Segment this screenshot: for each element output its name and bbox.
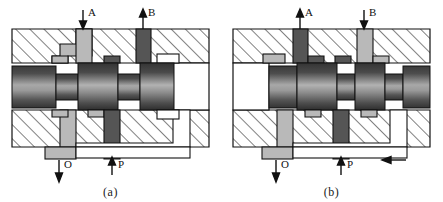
arrow-port-a — [297, 9, 304, 29]
drain-pocket-upper-right — [157, 54, 179, 63]
spool — [12, 63, 174, 110]
caption-a: (a) — [0, 185, 221, 200]
arrow-port-p — [338, 157, 345, 175]
valve-figure: A B O P (a) — [0, 0, 443, 202]
panel-b-drawing — [221, 0, 442, 202]
groove-lower-left — [52, 110, 68, 117]
left-cavity — [233, 63, 269, 110]
groove-lower-right — [361, 110, 377, 117]
arrow-port-o — [56, 160, 63, 182]
arrow-port-b — [140, 9, 147, 29]
caption-b: (b) — [221, 185, 442, 200]
drain-pocket-upper-left — [263, 54, 285, 63]
port-channel-b — [136, 29, 151, 63]
bottom-passage-line — [76, 147, 190, 158]
panel-b: A B O P (b) — [221, 0, 442, 202]
port-label-a: A — [88, 6, 96, 18]
panel-a-drawing — [0, 0, 221, 202]
port-label-p: P — [347, 158, 353, 170]
groove-lower-mid — [88, 110, 104, 117]
port-label-b: B — [148, 6, 155, 18]
panel-a: A B O P (a) — [0, 0, 221, 202]
arrow-port-a — [80, 10, 87, 29]
arrow-port-o — [273, 160, 280, 182]
groove-upper-left — [52, 56, 68, 63]
groove-upper-middle — [104, 56, 120, 63]
groove-upper-middle — [308, 56, 324, 63]
port-label-b: B — [369, 6, 376, 18]
port-label-o: O — [64, 158, 72, 170]
port-label-a: A — [305, 6, 313, 18]
port-label-p: P — [118, 158, 124, 170]
port-label-o: O — [281, 158, 289, 170]
spool — [269, 63, 430, 110]
arrow-port-b — [361, 10, 368, 29]
groove-lower-left — [305, 110, 321, 117]
groove-upper-right — [335, 56, 351, 63]
port-channel-a — [293, 29, 308, 63]
arrow-port-p — [109, 157, 116, 175]
right-cavity — [173, 63, 209, 110]
